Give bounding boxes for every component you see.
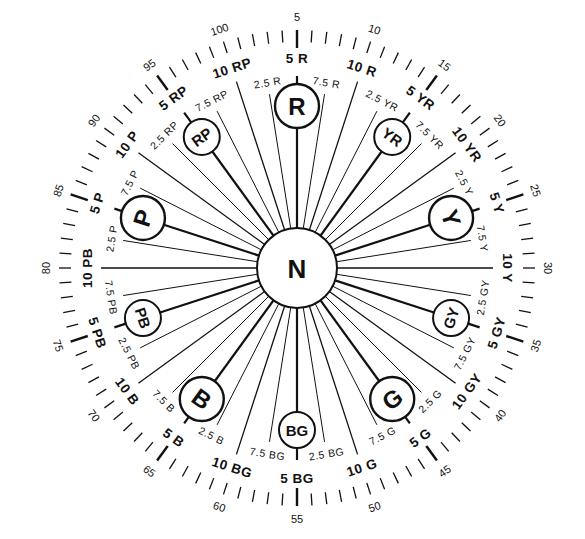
scale-tick bbox=[380, 47, 384, 58]
hue-spoke bbox=[321, 152, 382, 236]
scale-number: 75 bbox=[51, 338, 66, 353]
hue-circle-label: BG bbox=[286, 422, 309, 439]
hue-spoke bbox=[236, 306, 284, 454]
scale-tick bbox=[209, 47, 213, 58]
scale-tick bbox=[63, 223, 75, 225]
hue-spoke bbox=[123, 240, 257, 261]
scale-tick bbox=[325, 492, 327, 504]
scale-tick bbox=[124, 105, 133, 113]
hue-label: 10 PB bbox=[80, 248, 95, 288]
scale-number: 30 bbox=[542, 262, 554, 274]
hue-label: 2.5 Y bbox=[453, 168, 476, 197]
scale-tick bbox=[506, 194, 523, 200]
scale-number: 80 bbox=[40, 262, 52, 274]
hue-label: 5 G bbox=[407, 425, 435, 451]
scale-tick bbox=[157, 75, 168, 90]
scale-tick bbox=[488, 140, 498, 146]
hue-spoke bbox=[160, 280, 259, 312]
hue-spoke bbox=[309, 306, 357, 454]
scale-tick bbox=[471, 116, 480, 124]
scale-tick bbox=[311, 30, 312, 42]
hue-label: 10 GY bbox=[449, 371, 485, 413]
hue-label: 10 YR bbox=[449, 124, 485, 165]
hue-label: 10 Y bbox=[500, 253, 515, 283]
hue-label: 2.5 R bbox=[253, 74, 282, 90]
scale-number: 45 bbox=[436, 463, 453, 480]
scale-number: 95 bbox=[141, 56, 158, 73]
hue-label: 5 PB bbox=[85, 315, 109, 350]
hue-label: 7.5 PB bbox=[103, 279, 120, 315]
hue-label: 2.5 YR bbox=[364, 87, 401, 114]
munsell-hue-wheel: 5101520253035404550556065707580859095100… bbox=[0, 0, 585, 539]
scale-tick bbox=[124, 423, 133, 431]
hue-label: 2.5 PB bbox=[116, 335, 142, 371]
scale-tick bbox=[507, 180, 518, 184]
hue-label: 5 BG bbox=[280, 471, 314, 486]
scale-tick bbox=[76, 180, 87, 184]
scale-tick bbox=[182, 466, 188, 477]
hue-label: 10 B bbox=[112, 375, 142, 409]
scale-tick bbox=[521, 238, 533, 240]
scale-tick bbox=[480, 401, 490, 408]
scale-tick bbox=[169, 459, 175, 469]
scale-tick bbox=[71, 194, 88, 200]
scale-number: 25 bbox=[528, 183, 543, 198]
scale-tick bbox=[252, 490, 254, 502]
scale-tick bbox=[76, 351, 87, 355]
hue-spoke bbox=[114, 209, 122, 211]
scale-tick bbox=[66, 324, 78, 327]
scale-tick bbox=[367, 42, 371, 53]
scale-tick bbox=[462, 105, 471, 113]
scale-tick bbox=[501, 364, 512, 369]
hue-label: 7.5 P bbox=[118, 168, 141, 198]
scale-tick bbox=[406, 59, 412, 70]
scale-tick bbox=[82, 167, 93, 172]
scale-number: 55 bbox=[291, 513, 303, 525]
scale-tick bbox=[311, 494, 312, 506]
scale-tick bbox=[488, 389, 498, 395]
scale-tick bbox=[88, 377, 99, 383]
scale-tick bbox=[267, 32, 269, 44]
scale-tick bbox=[441, 442, 449, 451]
scale-number: 10 bbox=[367, 22, 382, 37]
scale-tick bbox=[134, 433, 142, 442]
hue-spoke bbox=[335, 280, 434, 312]
scale-tick bbox=[182, 59, 188, 70]
hue-label: 7.5 BG bbox=[249, 445, 286, 462]
scale-tick bbox=[267, 492, 269, 504]
scale-tick bbox=[519, 223, 531, 225]
scale-tick bbox=[452, 95, 460, 104]
scale-number: 100 bbox=[209, 21, 230, 38]
hue-spoke bbox=[173, 144, 269, 240]
scale-tick bbox=[380, 478, 384, 489]
hue-label: 5 RP bbox=[156, 83, 191, 114]
scale-tick bbox=[462, 423, 471, 431]
scale-number: 15 bbox=[436, 56, 453, 73]
hue-spoke bbox=[468, 324, 479, 328]
scale-tick bbox=[426, 446, 437, 461]
scale-number: 50 bbox=[367, 499, 382, 514]
scale-tick bbox=[169, 67, 175, 77]
scale-tick bbox=[223, 483, 227, 494]
scale-tick bbox=[134, 95, 142, 104]
scale-tick bbox=[252, 34, 254, 46]
hue-label: 5 YR bbox=[403, 83, 438, 114]
scale-tick bbox=[196, 472, 201, 483]
scale-tick bbox=[282, 494, 283, 506]
hue-label: 7.5 R bbox=[312, 74, 341, 90]
scale-tick bbox=[282, 30, 283, 42]
scale-tick bbox=[209, 478, 213, 489]
scale-tick bbox=[238, 37, 241, 49]
scale-tick bbox=[406, 466, 412, 477]
scale-tick bbox=[104, 401, 114, 408]
scale-tick bbox=[196, 53, 201, 64]
hue-label: 10 RP bbox=[211, 55, 254, 82]
scale-tick bbox=[523, 282, 535, 283]
hue-label: 10 BG bbox=[210, 454, 254, 481]
scale-number: 65 bbox=[141, 463, 158, 480]
scale-number: 85 bbox=[51, 183, 66, 198]
hue-spoke bbox=[325, 296, 421, 392]
scale-tick bbox=[104, 128, 114, 135]
hue-label: 10 G bbox=[345, 456, 379, 480]
hue-label: 7.5 G bbox=[367, 424, 398, 447]
